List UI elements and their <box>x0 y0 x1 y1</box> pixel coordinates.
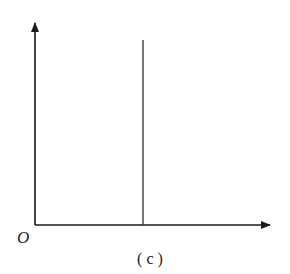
figure-caption: ( c ) <box>137 250 163 268</box>
diagram-canvas: O ( c ) <box>0 0 290 274</box>
origin-label: O <box>17 228 29 247</box>
